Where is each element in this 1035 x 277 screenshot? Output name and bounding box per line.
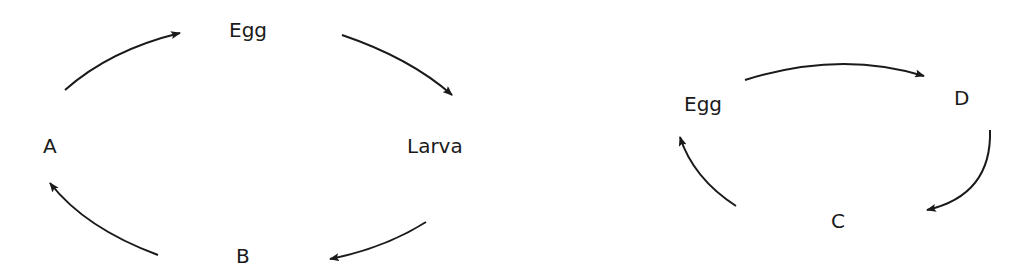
arrow-d-to-c (927, 130, 990, 210)
stage-b: B (236, 246, 250, 266)
stage-larva: Larva (407, 136, 463, 156)
stage-egg-left: Egg (229, 20, 267, 40)
arrow-a-to-egg (65, 33, 180, 90)
arrow-c-to-egg (680, 137, 736, 206)
stage-a: A (43, 136, 57, 156)
stage-d: D (954, 88, 969, 108)
arrow-egg-to-larva (342, 35, 452, 95)
stage-egg-right: Egg (684, 94, 722, 114)
arrow-b-to-a (50, 183, 158, 255)
arrow-larva-to-b (330, 222, 426, 259)
stage-c: C (831, 211, 845, 231)
cycle-arrows (0, 0, 1035, 277)
arrow-egg-to-d (745, 64, 924, 80)
